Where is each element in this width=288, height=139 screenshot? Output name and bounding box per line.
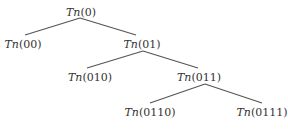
node-function-name: Tn — [177, 71, 191, 84]
tree-node-00: Tn(00) — [4, 39, 41, 50]
node-argument: (00) — [19, 38, 42, 51]
edge-01-011 — [143, 51, 198, 68]
edge-011-0110 — [150, 84, 205, 103]
node-function-name: Tn — [66, 6, 80, 19]
node-argument: (011) — [191, 71, 221, 84]
node-argument: (010) — [82, 71, 112, 84]
tree-node-01: Tn(01) — [123, 39, 160, 50]
node-argument: (01) — [138, 38, 161, 51]
node-argument: (0111) — [251, 106, 288, 119]
node-function-name: Tn — [4, 38, 18, 51]
edge-011-0111 — [205, 84, 262, 103]
node-function-name: Tn — [237, 106, 251, 119]
tree-node-010: Tn(010) — [68, 72, 112, 83]
tree-node-011: Tn(011) — [177, 72, 221, 83]
tree-diagram: Tn(0)Tn(00)Tn(01)Tn(010)Tn(011)Tn(0110)T… — [0, 0, 288, 139]
tree-node-0: Tn(0) — [66, 7, 96, 18]
node-function-name: Tn — [123, 38, 137, 51]
node-function-name: Tn — [125, 106, 139, 119]
edge-0-00 — [25, 18, 80, 35]
node-argument: (0) — [80, 6, 96, 19]
node-argument: (0110) — [139, 106, 176, 119]
edge-01-010 — [87, 51, 143, 68]
tree-node-0110: Tn(0110) — [125, 107, 176, 118]
tree-node-0111: Tn(0111) — [237, 107, 288, 118]
edge-0-01 — [80, 18, 136, 35]
node-function-name: Tn — [68, 71, 82, 84]
